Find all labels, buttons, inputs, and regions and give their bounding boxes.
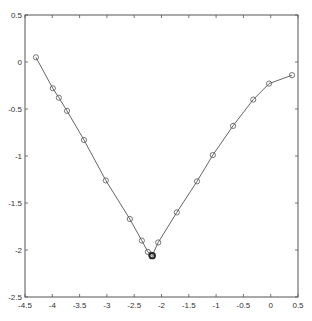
x-tick-label: -3.5 [73,301,87,310]
series-line [36,57,292,255]
data-series [33,55,294,259]
x-tick-label: -1.5 [182,301,196,310]
y-tick-label: -1 [15,152,23,161]
x-tick-label: -2.5 [127,301,141,310]
y-tick-label: -2.5 [8,293,22,302]
x-tick-label: 0 [268,301,273,310]
line-chart: -4.5-4-3.5-3-2.5-2-1.5-1-0.500.5 0.50-0.… [0,0,312,321]
x-axis-ticks: -4.5-4-3.5-3-2.5-2-1.5-1-0.500.5 [18,15,304,310]
data-point-marker [289,73,294,78]
x-tick-label: 0.5 [292,301,304,310]
y-tick-label: 0 [18,58,23,67]
y-tick-label: 0.5 [11,11,23,20]
y-tick-label: -1.5 [8,199,22,208]
x-tick-label: -3 [103,301,111,310]
plot-border [25,15,298,297]
x-tick-label: -1 [213,301,221,310]
x-tick-label: -2 [158,301,166,310]
x-tick-label: -4.5 [18,301,32,310]
y-tick-label: -2 [15,246,23,255]
x-tick-label: -0.5 [237,301,251,310]
axes-frame [25,15,298,297]
x-tick-label: -4 [49,301,57,310]
y-tick-label: -0.5 [8,105,22,114]
